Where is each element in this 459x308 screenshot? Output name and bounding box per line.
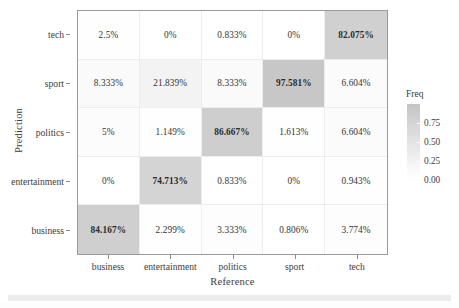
heatmap-cell-value: 0%: [287, 30, 300, 40]
legend: Freq 0.750.500.250.00: [404, 88, 459, 198]
heatmap-cell-value: 1.613%: [279, 127, 308, 137]
legend-title: Freq: [406, 88, 424, 99]
x-axis-label: tech: [349, 261, 365, 272]
heatmap-cell-value: 6.604%: [341, 78, 370, 88]
y-axis-tick: [66, 181, 70, 182]
heatmap-cell-value: 1.149%: [156, 127, 185, 137]
heatmap-cell: 5%: [78, 108, 140, 157]
x-axis-label: politics: [218, 261, 246, 272]
heatmap-cell: 2.5%: [78, 11, 140, 60]
x-axis-tick: [170, 255, 171, 259]
y-axis-tick: [66, 83, 70, 84]
heatmap-cell-value: 6.604%: [341, 127, 370, 137]
legend-tick-mark: [417, 161, 420, 162]
heatmap-cell: 0.806%: [263, 205, 325, 254]
heatmap-grid: 2.5%0%0.833%0%82.075%8.333%21.839%8.333%…: [78, 11, 387, 254]
x-axis-label: sport: [285, 261, 304, 272]
legend-tick-mark: [417, 123, 420, 124]
heatmap-cell-value: 0.833%: [217, 176, 246, 186]
heatmap-cell-value: 21.839%: [153, 78, 187, 88]
y-axis-label: politics: [36, 108, 64, 157]
x-axis-label: business: [92, 261, 125, 272]
heatmap-cell: 0%: [263, 11, 325, 60]
heatmap-cell: 6.604%: [325, 108, 387, 157]
heatmap-cell: 1.149%: [140, 108, 202, 157]
heatmap-cell: 2.299%: [140, 205, 202, 254]
x-axis-ticks: [77, 255, 388, 260]
x-axis-tick: [233, 255, 234, 259]
y-axis-label: tech: [48, 10, 64, 59]
heatmap-panel: 2.5%0%0.833%0%82.075%8.333%21.839%8.333%…: [77, 10, 388, 255]
legend-tick-mark: [417, 180, 420, 181]
heatmap-cell: 3.774%: [325, 205, 387, 254]
y-axis-label: sport: [45, 59, 64, 108]
heatmap-cell: 84.167%: [78, 205, 140, 254]
heatmap-cell-value: 0.943%: [341, 176, 370, 186]
legend-tick-label: 0.75: [424, 118, 440, 128]
x-axis-label: entertainment: [144, 261, 197, 272]
heatmap-cell-value: 0.806%: [279, 225, 308, 235]
heatmap-cell: 3.333%: [202, 205, 264, 254]
heatmap-cell-value: 97.581%: [276, 78, 312, 88]
heatmap-cell: 74.713%: [140, 157, 202, 206]
heatmap-cell: 6.604%: [325, 60, 387, 109]
scan-artifact-strip: [8, 295, 451, 301]
heatmap-cell-value: 2.299%: [156, 225, 185, 235]
heatmap-cell-value: 0%: [164, 30, 177, 40]
y-axis-tick: [66, 230, 70, 231]
heatmap-cell: 8.333%: [78, 60, 140, 109]
x-axis-tick: [108, 255, 109, 259]
heatmap-cell: 0%: [78, 157, 140, 206]
heatmap-cell-value: 3.333%: [217, 225, 246, 235]
heatmap-cell: 0%: [140, 11, 202, 60]
heatmap-cell-value: 84.167%: [91, 225, 127, 235]
legend-tick-mark: [417, 142, 420, 143]
heatmap-cell-value: 0%: [102, 176, 115, 186]
legend-tick-label: 0.00: [424, 175, 440, 185]
heatmap-cell: 0.833%: [202, 11, 264, 60]
scan-artifact-edge: [0, 302, 459, 308]
legend-tick-label: 0.25: [424, 156, 440, 166]
heatmap-cell-value: 5%: [102, 127, 115, 137]
x-axis-labels: businessentertainmentpoliticssporttech: [77, 261, 388, 275]
heatmap-cell-value: 8.333%: [217, 78, 246, 88]
heatmap-cell-value: 86.667%: [214, 127, 250, 137]
heatmap-cell-value: 8.333%: [94, 78, 123, 88]
x-axis-title: Reference: [77, 276, 388, 287]
heatmap-cell-value: 0%: [287, 176, 300, 186]
heatmap-cell-value: 3.774%: [341, 225, 370, 235]
heatmap-cell-value: 2.5%: [99, 30, 119, 40]
heatmap-cell: 1.613%: [263, 108, 325, 157]
heatmap-cell: 0.943%: [325, 157, 387, 206]
y-axis-label: entertainment: [11, 157, 64, 206]
heatmap-cell-value: 82.075%: [338, 30, 374, 40]
heatmap-cell: 86.667%: [202, 108, 264, 157]
y-axis-label: business: [31, 206, 64, 255]
heatmap-cell: 0%: [263, 157, 325, 206]
legend-tick-label: 0.50: [424, 137, 440, 147]
x-axis-tick: [357, 255, 358, 259]
y-axis-labels: techsportpoliticsentertainmentbusiness: [0, 10, 70, 255]
heatmap-cell: 82.075%: [325, 11, 387, 60]
heatmap-cell: 8.333%: [202, 60, 264, 109]
heatmap-cell-value: 74.713%: [152, 176, 188, 186]
heatmap-cell: 21.839%: [140, 60, 202, 109]
x-axis-tick: [295, 255, 296, 259]
y-axis-tick: [66, 34, 70, 35]
confusion-matrix-figure: Prediction techsportpoliticsentertainmen…: [0, 0, 459, 308]
heatmap-cell: 97.581%: [263, 60, 325, 109]
y-axis-tick: [66, 132, 70, 133]
heatmap-cell-value: 0.833%: [217, 30, 246, 40]
heatmap-cell: 0.833%: [202, 157, 264, 206]
